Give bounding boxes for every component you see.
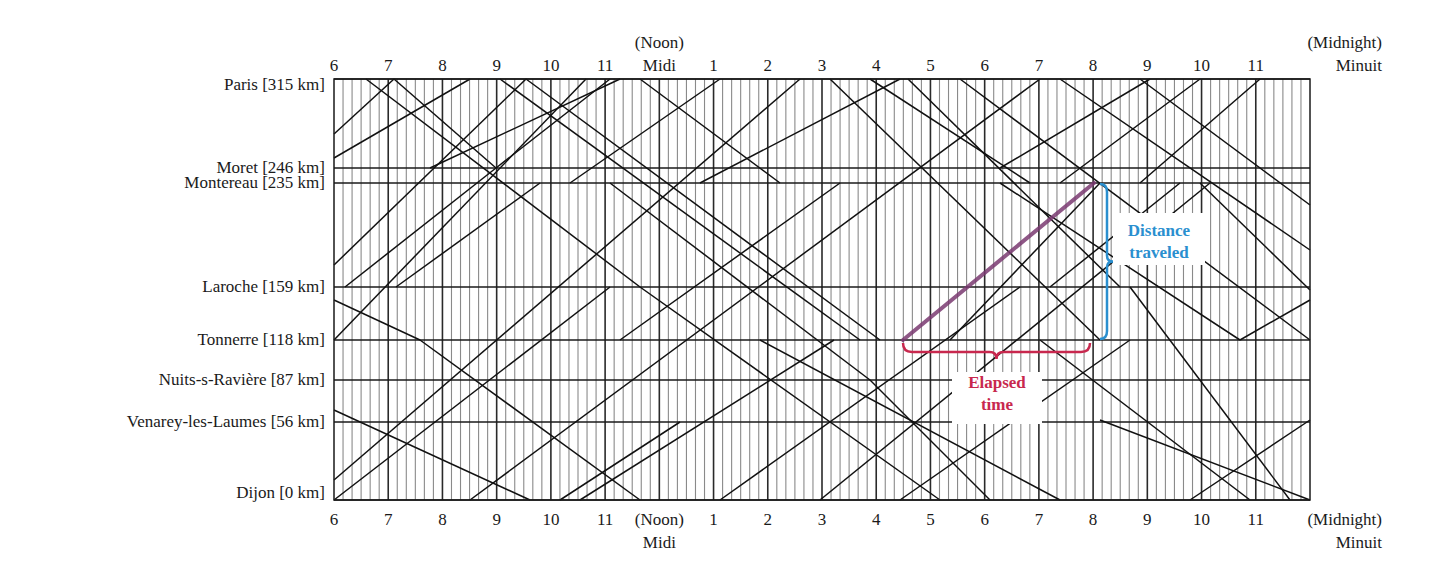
noon-label-top: (Noon) [635, 33, 684, 52]
train-line [580, 340, 834, 500]
minuit-label-top: Minuit [1336, 56, 1383, 75]
hour-tick-label-top: 7 [384, 56, 393, 75]
train-line [334, 79, 800, 480]
elapsed-label-line2: time [981, 395, 1014, 414]
station-label: Paris [315 km] [224, 75, 325, 94]
train-line [960, 79, 1310, 340]
noon-label-bottom: (Noon) [635, 510, 684, 529]
hour-tick-label-top: 8 [438, 56, 447, 75]
hour-tick-label-top: 3 [818, 56, 827, 75]
station-label: Montereau [235 km] [184, 173, 325, 192]
elapsed-label-line1: Elapsed [968, 373, 1026, 392]
train-line [334, 79, 470, 158]
hour-gridlines [388, 79, 1256, 500]
hour-tick-label-bottom: 11 [1248, 510, 1264, 529]
hour-tick-label-top: 8 [1089, 56, 1098, 75]
hour-tick-label-bottom: 8 [1089, 510, 1098, 529]
train-line [1040, 340, 1250, 500]
hour-tick-label-bottom: 4 [872, 510, 881, 529]
hour-tick-label-top: 6 [980, 56, 989, 75]
midi-label-top: Midi [643, 56, 676, 75]
hour-tick-label-top: 11 [1248, 56, 1264, 75]
hour-tick-label-top: 10 [542, 56, 559, 75]
hour-tick-label-top: 7 [1035, 56, 1044, 75]
hour-tick-label-bottom: 7 [384, 510, 393, 529]
bottom-hour-axis: 67891011(Noon)Midi1234567891011(Midnight… [330, 510, 1383, 552]
hour-tick-label-top: 10 [1193, 56, 1210, 75]
train-line [620, 183, 840, 340]
train-line [500, 79, 860, 340]
hour-tick-label-top: 1 [709, 56, 718, 75]
train-line [396, 183, 540, 287]
hour-tick-label-bottom: 5 [926, 510, 935, 529]
hour-tick-label-bottom: 9 [1143, 510, 1152, 529]
hour-tick-label-top: 11 [597, 56, 613, 75]
station-label: Venarey-les-Laumes [56 km] [127, 412, 325, 431]
train-schedule-diagram: Paris [315 km]Moret [246 km]Montereau [2… [0, 0, 1444, 575]
midi-label-bottom: Midi [643, 533, 676, 552]
hour-tick-label-bottom: 9 [492, 510, 501, 529]
train-line [430, 79, 620, 168]
station-label: Tonnerre [118 km] [197, 330, 325, 349]
hour-tick-label-top: 2 [764, 56, 773, 75]
train-line [1240, 300, 1310, 340]
train-line [420, 340, 640, 500]
top-hour-axis: 67891011(Noon)Midi1234567891011(Midnight… [330, 33, 1383, 75]
distance-label-line2: traveled [1129, 243, 1189, 262]
minuit-label-bottom: Minuit [1336, 533, 1383, 552]
hour-tick-label-bottom: 3 [818, 510, 827, 529]
hour-tick-label-bottom: 6 [330, 510, 339, 529]
train-line [1130, 287, 1290, 500]
hour-tick-label-bottom: 1 [709, 510, 718, 529]
hour-tick-label-top: 5 [926, 56, 935, 75]
hour-tick-label-bottom: 6 [980, 510, 989, 529]
distance-label-line1: Distance [1128, 221, 1191, 240]
station-label: Dijon [0 km] [236, 483, 325, 502]
hour-tick-label-top: 6 [330, 56, 339, 75]
highlighted-train-line [903, 183, 1094, 340]
hour-tick-label-bottom: 10 [1193, 510, 1210, 529]
hour-tick-label-bottom: 11 [597, 510, 613, 529]
train-line [334, 300, 420, 340]
station-label: Nuits-s-Ravière [87 km] [159, 370, 325, 389]
hour-tick-label-bottom: 10 [542, 510, 559, 529]
hour-tick-label-top: 9 [492, 56, 501, 75]
hour-tick-label-top: 4 [872, 56, 881, 75]
station-labels: Paris [315 km]Moret [246 km]Montereau [2… [127, 75, 325, 502]
hour-tick-label-bottom: 7 [1035, 510, 1044, 529]
train-line [526, 79, 880, 340]
midnight-label-top: (Midnight) [1307, 33, 1382, 52]
hour-tick-label-bottom: 2 [764, 510, 773, 529]
train-line [1100, 420, 1310, 500]
train-line [950, 183, 1100, 340]
midnight-label-bottom: (Midnight) [1307, 510, 1382, 529]
hour-tick-label-top: 9 [1143, 56, 1152, 75]
station-label: Laroche [159 km] [202, 277, 325, 296]
hour-tick-label-bottom: 8 [438, 510, 447, 529]
